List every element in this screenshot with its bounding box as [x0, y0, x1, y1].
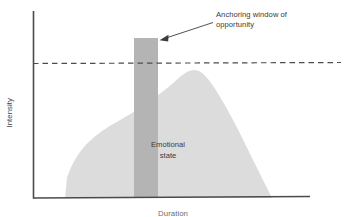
y-axis-label: Intensity: [5, 83, 15, 143]
chart-plot-area: [0, 0, 346, 217]
emotional-state-area: [65, 70, 272, 198]
x-axis-label: Duration: [118, 209, 228, 217]
emotional-state-label: Emotional state: [136, 140, 200, 161]
anchoring-window-bar: [134, 38, 158, 198]
anchoring-window-annotation-label: Anchoring window of opportunity: [216, 10, 334, 29]
annotation-arrow-head: [160, 35, 169, 42]
annotation-arrow-line: [163, 23, 213, 40]
threshold-dashed-line: [33, 63, 341, 64]
chart-figure: Anchoring window of opportunity Emotiona…: [0, 0, 346, 217]
